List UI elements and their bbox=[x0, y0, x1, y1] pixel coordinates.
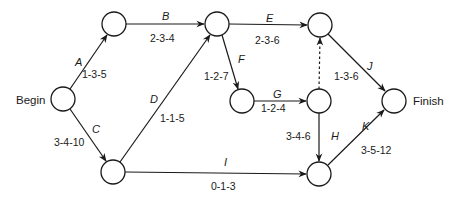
node-5 bbox=[230, 89, 254, 113]
node-3 bbox=[205, 12, 229, 36]
node-finish bbox=[382, 89, 406, 113]
node-4 bbox=[101, 160, 125, 184]
activity-i-name: I bbox=[224, 156, 227, 168]
activity-g-name: G bbox=[273, 88, 282, 100]
activity-a-times: 1-3-5 bbox=[82, 68, 107, 80]
activity-k-name: K bbox=[362, 120, 370, 132]
activity-b-times: 2-3-4 bbox=[150, 32, 175, 44]
activity-j-name: J bbox=[366, 60, 373, 72]
edge-e bbox=[229, 24, 307, 25]
activity-b-name: B bbox=[162, 10, 169, 22]
activity-d-name: D bbox=[150, 93, 158, 105]
activity-i-times: 0-1-3 bbox=[211, 180, 236, 192]
activity-a-name: A bbox=[74, 56, 82, 68]
edge-c bbox=[70, 109, 106, 161]
activity-f-times: 1-2-7 bbox=[204, 70, 229, 82]
edge-d bbox=[120, 35, 210, 162]
node-2 bbox=[102, 12, 126, 36]
begin-label: Begin bbox=[16, 94, 45, 106]
activity-g-times: 1-2-4 bbox=[261, 102, 286, 114]
activity-e-times: 2-3-6 bbox=[255, 34, 280, 46]
node-7 bbox=[307, 89, 331, 113]
activity-j-times: 1-3-6 bbox=[334, 70, 359, 82]
node-6 bbox=[308, 13, 332, 37]
dummy-edge bbox=[319, 38, 320, 89]
activity-f-name: F bbox=[238, 53, 246, 65]
edge-i bbox=[125, 172, 306, 174]
pert-network-diagram: Begin Finish A B C D E F G H I J K 1-3-5… bbox=[0, 0, 462, 202]
finish-label: Finish bbox=[413, 95, 444, 107]
activity-k-times: 3-5-12 bbox=[361, 144, 392, 156]
node-begin bbox=[51, 87, 75, 111]
activity-d-times: 1-1-5 bbox=[160, 112, 185, 124]
activity-c-name: C bbox=[92, 123, 100, 135]
activity-c-times: 3-4-10 bbox=[54, 136, 85, 148]
activity-e-name: E bbox=[266, 12, 274, 24]
edge-j bbox=[328, 34, 385, 91]
node-9 bbox=[307, 162, 331, 186]
activity-h-times: 3-4-6 bbox=[286, 130, 311, 142]
activity-h-name: H bbox=[331, 130, 339, 142]
